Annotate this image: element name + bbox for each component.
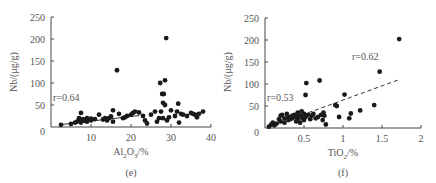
data-point: [163, 78, 168, 83]
x-tick-label: 0.5: [298, 133, 311, 144]
data-point: [93, 117, 98, 122]
data-point: [111, 108, 116, 113]
correlation-annotation-1: r=0.53: [267, 92, 293, 103]
data-point: [397, 37, 402, 42]
correlation-annotation: r=0.64: [53, 92, 79, 103]
y-tick-label: 250: [244, 13, 259, 24]
data-point: [97, 112, 102, 117]
data-points: [267, 37, 402, 129]
y-tick-label: 100: [30, 78, 45, 89]
data-point: [304, 81, 309, 86]
data-point: [348, 111, 353, 116]
data-point: [77, 116, 82, 121]
data-point: [358, 108, 363, 113]
x-tick-label: 2: [419, 133, 424, 144]
y-tick-label: 0: [40, 126, 45, 137]
data-point: [177, 120, 182, 125]
data-point: [145, 121, 150, 126]
data-point: [201, 109, 206, 114]
y-tick-label: 200: [244, 35, 259, 46]
x-axis-label: Al2O3/%: [113, 146, 148, 160]
data-point: [311, 112, 316, 117]
data-point: [320, 118, 325, 123]
y-tick-label: 100: [244, 79, 259, 90]
data-point: [334, 104, 339, 109]
data-point: [377, 69, 382, 74]
data-point: [164, 36, 169, 41]
data-point: [185, 114, 190, 119]
figure: 050100150200250 10203040 r=0.64 Nb/(μg/g…: [0, 0, 436, 183]
data-point: [158, 81, 163, 86]
x-tick-label: 20: [126, 132, 136, 143]
correlation-annotation-2: r=0.62: [352, 51, 378, 62]
data-point: [111, 119, 116, 124]
data-point: [109, 114, 114, 119]
data-point: [133, 109, 138, 114]
x-tick-label: 1.5: [376, 133, 389, 144]
y-ticks: 050100150200250: [30, 12, 54, 138]
data-point: [337, 115, 342, 120]
y-tick-label: 200: [30, 34, 45, 45]
y-tick-label: 250: [30, 12, 45, 23]
data-point: [167, 115, 172, 120]
x-tick-label: 30: [166, 132, 176, 143]
scatter-panel-e: 050100150200250 10203040 r=0.64 Nb/(μg/g…: [8, 12, 216, 180]
data-point: [59, 122, 64, 127]
y-tick-label: 50: [35, 100, 45, 111]
y-tick-label: 50: [249, 101, 259, 112]
data-point: [137, 110, 142, 115]
data-point: [173, 114, 178, 119]
panel-label: (e): [125, 167, 136, 179]
data-point: [163, 103, 168, 108]
y-axis-label: Nb/(μg/g): [222, 52, 234, 92]
data-point: [149, 112, 154, 117]
data-point: [372, 103, 377, 108]
data-point: [169, 108, 174, 113]
scatter-panel-f: 050100150200250 0.511.52 r=0.53 r=0.62 N…: [222, 13, 424, 180]
x-tick-label: 10: [86, 132, 96, 143]
data-point: [79, 111, 84, 116]
data-point: [141, 114, 146, 119]
data-point: [159, 109, 164, 114]
y-ticks: 050100150200250: [244, 13, 268, 139]
y-axis-label: Nb/(μg/g): [8, 52, 20, 92]
data-point: [342, 92, 347, 97]
data-point: [303, 93, 308, 98]
data-point: [323, 122, 328, 127]
data-point: [298, 120, 303, 125]
data-point: [176, 101, 181, 106]
y-tick-label: 0: [254, 127, 259, 138]
data-point: [347, 116, 352, 121]
x-tick-label: 40: [206, 132, 216, 143]
data-point: [115, 68, 120, 73]
data-point: [117, 111, 122, 116]
y-tick-label: 150: [244, 57, 259, 68]
y-tick-label: 150: [30, 56, 45, 67]
data-points: [59, 36, 206, 127]
x-tick-label: 1: [341, 133, 346, 144]
panel-label: (f): [338, 167, 348, 179]
x-axis-label: TiO2/%: [328, 147, 358, 161]
data-point: [282, 120, 287, 125]
data-point: [153, 109, 158, 114]
data-point: [317, 78, 322, 83]
data-point: [322, 113, 327, 118]
data-point: [161, 92, 166, 97]
